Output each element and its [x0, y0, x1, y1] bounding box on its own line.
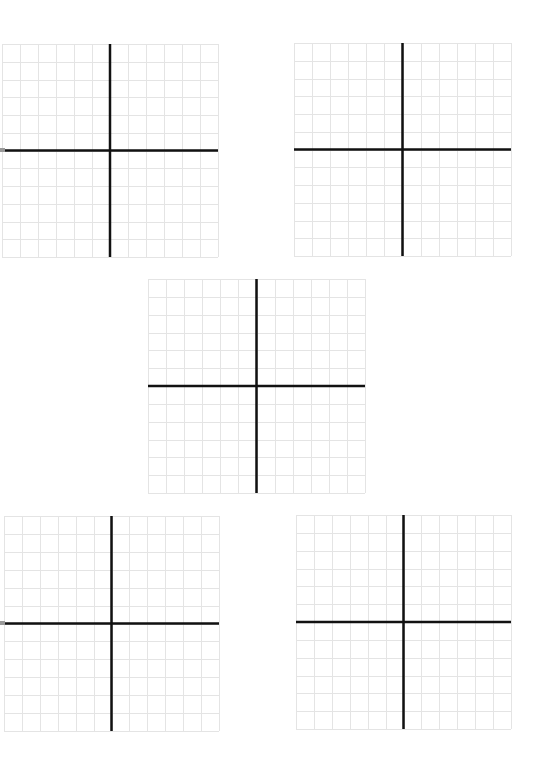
edge-mark-bottom: [0, 621, 5, 625]
grid-svg: [296, 515, 511, 729]
grid-svg: [2, 44, 218, 257]
edge-mark-top: [0, 148, 5, 152]
grid-bottom-right: [296, 515, 511, 729]
grid-svg: [148, 279, 365, 493]
grid-svg: [4, 516, 219, 731]
grid-top-left: [2, 44, 218, 257]
grid-middle: [148, 279, 365, 493]
grid-bottom-left: [4, 516, 219, 731]
grid-svg: [294, 43, 511, 256]
grid-top-right: [294, 43, 511, 256]
